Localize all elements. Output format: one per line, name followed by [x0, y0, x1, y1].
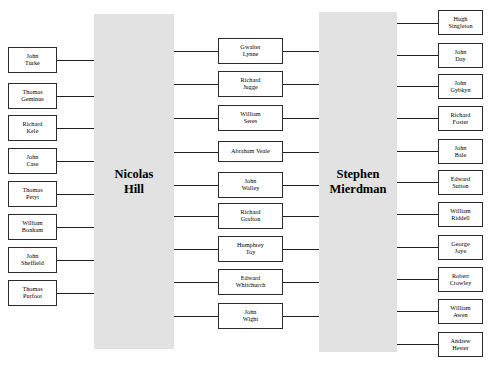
node-richard-jugge[interactable]: Richard Jugge	[218, 71, 283, 97]
node-label: Richard Jugge	[241, 77, 261, 91]
edge-stephen-mierdman-edward-sutton	[397, 182, 438, 183]
node-label: William Awen	[450, 305, 470, 319]
edge-stephen-mierdman-george-joye	[397, 247, 438, 248]
node-label: John Gybkyn	[450, 80, 470, 94]
edge-thomas-purfoot-nicolas-hill	[57, 293, 94, 294]
node-label: John Case	[26, 154, 38, 168]
node-label: John Sheffield	[21, 253, 44, 267]
edge-william-bonham-nicolas-hill	[57, 227, 94, 228]
node-john-gybkyn[interactable]: John Gybkyn	[438, 74, 483, 99]
node-john-walley[interactable]: John Walley	[218, 172, 283, 198]
node-abraham-veale[interactable]: Abraham Veale	[218, 141, 283, 162]
node-label: Hugh Singleton	[448, 16, 472, 30]
node-label: John Wight	[243, 309, 258, 323]
hub-node-nicolas-hill[interactable]: Nicolas Hill	[94, 14, 174, 349]
edge-thomas-petyt-nicolas-hill	[57, 194, 94, 195]
node-label: John Walley	[242, 178, 260, 192]
node-label: Richard Kele	[23, 121, 43, 135]
node-label: Humphrey Toy	[237, 242, 264, 256]
edge-abraham-veale-stephen-mierdman	[283, 152, 319, 153]
edge-nicolas-hill-edward-whitchurch	[174, 282, 218, 283]
node-william-seres[interactable]: William Seres	[218, 105, 283, 131]
node-label: John Bale	[455, 145, 467, 159]
node-richard-foster[interactable]: Richard Foster	[438, 106, 483, 131]
node-john-case[interactable]: John Case	[8, 148, 57, 174]
node-richard-kele[interactable]: Richard Kele	[8, 115, 57, 141]
edge-nicolas-hill-john-wight	[174, 316, 218, 317]
node-gwalter-lynne[interactable]: Gwalter Lynne	[218, 38, 283, 64]
node-label: Richard Grafton	[241, 209, 261, 223]
edge-nicolas-hill-gwalter-lynne	[174, 51, 218, 52]
edge-john-wight-stephen-mierdman	[283, 316, 319, 317]
node-label: Thomas Purfoot	[22, 286, 42, 300]
edge-richard-grafton-stephen-mierdman	[283, 216, 319, 217]
edge-stephen-mierdman-john-bale	[397, 151, 438, 152]
edge-nicolas-hill-humphrey-toy	[174, 249, 218, 250]
hub-node-label: Nicolas Hill	[115, 167, 154, 197]
node-humphrey-toy[interactable]: Humphrey Toy	[218, 236, 283, 262]
node-label: John Turke	[25, 53, 40, 67]
edge-john-sheffield-nicolas-hill	[57, 260, 94, 261]
node-edward-whitchurch[interactable]: Edward Whitchurch	[218, 269, 283, 295]
node-hugh-singleton[interactable]: Hugh Singleton	[438, 10, 483, 35]
node-label: Andrew Hester	[450, 338, 470, 352]
edge-john-turke-nicolas-hill	[57, 60, 94, 61]
edge-stephen-mierdman-hugh-singleton	[397, 23, 438, 24]
edge-john-case-nicolas-hill	[57, 161, 94, 162]
node-richard-grafton[interactable]: Richard Grafton	[218, 203, 283, 229]
hub-node-stephen-mierdman[interactable]: Stephen Mierdman	[319, 12, 397, 352]
node-label: George Joye	[451, 241, 469, 255]
edge-john-walley-stephen-mierdman	[283, 185, 319, 186]
edge-stephen-mierdman-robert-crowley	[397, 279, 438, 280]
node-john-day[interactable]: John Day	[438, 43, 483, 68]
node-george-joye[interactable]: George Joye	[438, 235, 483, 260]
node-thomas-petyt[interactable]: Thomas Petyt	[8, 181, 57, 207]
edge-humphrey-toy-stephen-mierdman	[283, 249, 319, 250]
edge-richard-kele-nicolas-hill	[57, 128, 94, 129]
node-william-awen[interactable]: William Awen	[438, 299, 483, 324]
edge-gwalter-lynne-stephen-mierdman	[283, 51, 319, 52]
node-label: Edward Sutton	[451, 176, 471, 190]
node-label: John Day	[455, 49, 467, 63]
node-label: William Bonham	[22, 220, 43, 234]
edge-nicolas-hill-richard-grafton	[174, 216, 218, 217]
edge-stephen-mierdman-william-awen	[397, 311, 438, 312]
node-edward-sutton[interactable]: Edward Sutton	[438, 170, 483, 195]
node-label: Gwalter Lynne	[240, 44, 260, 58]
node-william-bonham[interactable]: William Bonham	[8, 214, 57, 240]
network-diagram-canvas: Nicolas Hill Stephen Mierdman John Turke…	[0, 0, 488, 365]
node-robert-crowley[interactable]: Robert Crowley	[438, 267, 483, 292]
edge-edward-whitchurch-stephen-mierdman	[283, 282, 319, 283]
hub-node-label: Stephen Mierdman	[330, 167, 387, 197]
node-label: William Seres	[240, 111, 260, 125]
edge-stephen-mierdman-william-riddell	[397, 214, 438, 215]
node-william-riddell[interactable]: William Riddell	[438, 202, 483, 227]
edge-stephen-mierdman-john-gybkyn	[397, 86, 438, 87]
node-john-turke[interactable]: John Turke	[8, 47, 57, 73]
edge-nicolas-hill-william-seres	[174, 118, 218, 119]
node-thomas-geminus[interactable]: Thomas Geminus	[8, 83, 57, 109]
edge-richard-jugge-stephen-mierdman	[283, 84, 319, 85]
edge-nicolas-hill-john-walley	[174, 185, 218, 186]
node-john-sheffield[interactable]: John Sheffield	[8, 247, 57, 273]
node-john-bale[interactable]: John Bale	[438, 139, 483, 164]
edge-stephen-mierdman-john-day	[397, 55, 438, 56]
node-label: Robert Crowley	[450, 273, 472, 287]
edge-stephen-mierdman-richard-foster	[397, 118, 438, 119]
edge-william-seres-stephen-mierdman	[283, 118, 319, 119]
edge-stephen-mierdman-andrew-hester	[397, 344, 438, 345]
node-john-wight[interactable]: John Wight	[218, 303, 283, 329]
edge-thomas-geminus-nicolas-hill	[57, 96, 94, 97]
edge-nicolas-hill-richard-jugge	[174, 84, 218, 85]
node-label: Abraham Veale	[231, 148, 270, 155]
edge-nicolas-hill-abraham-veale	[174, 152, 218, 153]
node-label: Thomas Geminus	[21, 89, 44, 103]
node-andrew-hester[interactable]: Andrew Hester	[438, 332, 483, 357]
node-label: Thomas Petyt	[22, 187, 42, 201]
node-label: Edward Whitchurch	[236, 275, 266, 289]
node-label: Richard Foster	[451, 112, 471, 126]
node-thomas-purfoot[interactable]: Thomas Purfoot	[8, 280, 57, 306]
node-label: William Riddell	[450, 208, 470, 222]
